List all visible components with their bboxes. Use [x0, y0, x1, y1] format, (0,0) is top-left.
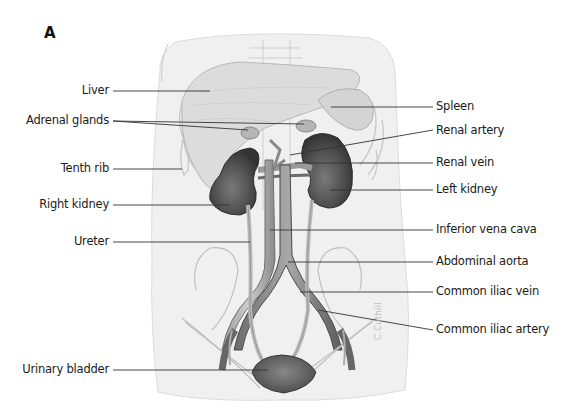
artist-signature: C.Cuthill: [374, 302, 383, 340]
right-adrenal: [241, 127, 259, 139]
label-urinary-bladder: Urinary bladder: [22, 363, 109, 376]
label-inferior-vena-cava: Inferior vena cava: [436, 223, 537, 236]
label-left-kidney: Left kidney: [436, 183, 497, 196]
label-spleen: Spleen: [436, 100, 474, 113]
label-right-kidney: Right kidney: [39, 198, 109, 211]
label-common-iliac-artery: Common iliac artery: [436, 323, 549, 336]
label-adrenal-glands: Adrenal glands: [26, 114, 109, 127]
label-liver: Liver: [82, 84, 109, 97]
label-ureter: Ureter: [74, 235, 109, 248]
label-renal-vein: Renal vein: [436, 156, 494, 169]
left-adrenal: [296, 120, 316, 132]
label-tenth-rib: Tenth rib: [61, 162, 109, 175]
label-renal-artery: Renal artery: [436, 124, 504, 137]
label-abdominal-aorta: Abdominal aorta: [436, 255, 528, 268]
label-common-iliac-vein: Common iliac vein: [436, 285, 539, 298]
